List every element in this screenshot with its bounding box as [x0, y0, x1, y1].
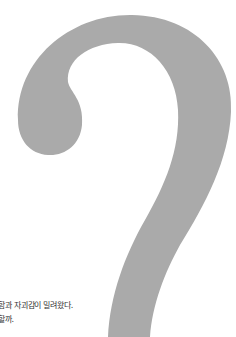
- caption-text: 함과 자괴감이 밀려왔다. 할까.: [0, 299, 73, 327]
- caption-line-1: 함과 자괴감이 밀려왔다.: [0, 299, 73, 313]
- caption-line-2: 할까.: [0, 313, 73, 327]
- question-mark-shape: [18, 15, 231, 337]
- question-mark-graphic: [0, 0, 236, 337]
